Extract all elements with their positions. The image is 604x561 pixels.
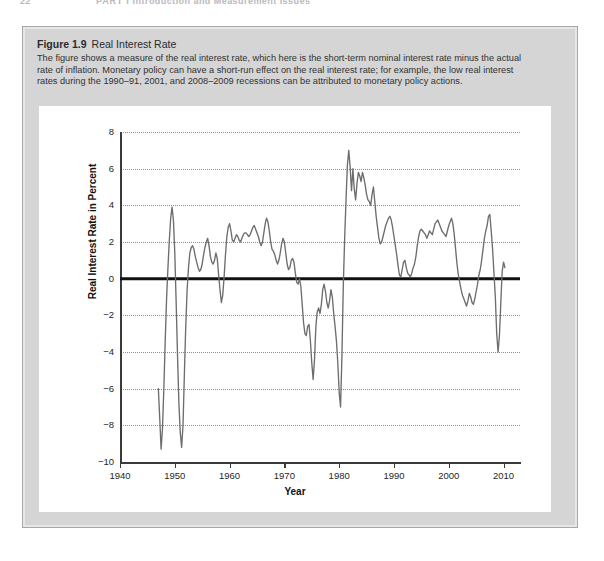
running-title: PART I Introduction and Measurement Issu… — [96, 0, 310, 6]
running-title-text: Introduction and Measurement Issues — [133, 0, 311, 6]
figure-title-text: Real Interest Rate — [92, 38, 177, 50]
y-tick-label-0: 0 — [80, 273, 114, 284]
x-tick-1990 — [394, 463, 395, 468]
y-tick-label--2: −2 — [80, 309, 114, 320]
figure-title: Figure 1.9Real Interest Rate — [37, 37, 565, 51]
caption-line-3: rates during the 1990–91, 2001, and 2008… — [37, 76, 565, 88]
x-tick-2000 — [449, 463, 450, 468]
caption-line-2: rate of inflation. Monetary policy can h… — [37, 65, 565, 77]
x-tick-1970 — [284, 463, 285, 468]
y-tick-label-6: 6 — [80, 163, 114, 174]
figure-caption-block: Figure 1.9Real Interest Rate The figure … — [37, 37, 565, 88]
x-tick-label-1950: 1950 — [151, 470, 199, 481]
x-tick-label-2010: 2010 — [480, 470, 528, 481]
caption-line-1: The figure shows a measure of the real i… — [37, 53, 565, 65]
plot-area — [120, 132, 520, 462]
real-interest-rate-series — [158, 150, 505, 449]
page-running-header: 22 PART I Introduction and Measurement I… — [0, 0, 604, 11]
y-tick-label-2: 2 — [80, 236, 114, 247]
x-axis-line — [120, 462, 521, 464]
x-tick-1940 — [120, 463, 121, 468]
x-tick-1960 — [230, 463, 231, 468]
page-number: 22 — [20, 0, 30, 6]
y-tick-label--8: −8 — [80, 419, 114, 430]
x-tick-label-1970: 1970 — [260, 470, 308, 481]
x-tick-label-2000: 2000 — [425, 470, 473, 481]
y-tick-label--10: −10 — [80, 456, 114, 467]
figure-label: Figure 1.9 — [37, 38, 87, 50]
x-tick-label-1980: 1980 — [315, 470, 363, 481]
chart-card: Real Interest Rate in Percent Year −10−8… — [39, 106, 551, 512]
x-tick-label-1990: 1990 — [370, 470, 418, 481]
y-tick-label--4: −4 — [80, 346, 114, 357]
y-tick-label-8: 8 — [80, 126, 114, 137]
x-tick-1950 — [175, 463, 176, 468]
figure-panel: Figure 1.9Real Interest Rate The figure … — [22, 26, 578, 528]
x-tick-2010 — [504, 463, 505, 468]
x-tick-label-1940: 1940 — [96, 470, 144, 481]
y-tick-label--6: −6 — [80, 383, 114, 394]
part-label: PART I — [96, 0, 130, 6]
y-tick-label-4: 4 — [80, 199, 114, 210]
x-tick-1980 — [339, 463, 340, 468]
x-tick-label-1960: 1960 — [206, 470, 254, 481]
x-axis-title: Year — [39, 486, 551, 497]
